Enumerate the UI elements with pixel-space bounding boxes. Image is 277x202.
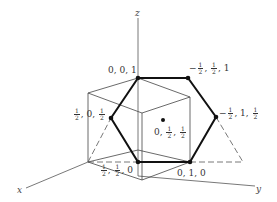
point-half-half-0 [136, 160, 141, 165]
point-half-0-half [109, 116, 114, 121]
label-0-0-1: 0, 0, 1 [108, 66, 137, 75]
point-neg-half-1-half [214, 115, 219, 120]
point-neg-half-half-1 [186, 76, 191, 81]
diagram-canvas [0, 0, 277, 202]
y-axis-label: y [256, 184, 261, 194]
x-axis-label: x [17, 185, 22, 195]
point-0-1-0 [188, 160, 193, 165]
construction-lines [88, 117, 243, 162]
label-0-half-half: 0, 12, 12 [154, 126, 187, 139]
z-axis-label: z [135, 8, 140, 18]
point-0-half-half [161, 118, 165, 122]
label-half-0-half: 12, 0, 12 [73, 108, 106, 121]
x-axis [26, 162, 88, 188]
label-0-1-0: 0, 1, 0 [177, 169, 206, 178]
label-half-half-0: 12, 12, 0 [100, 164, 133, 177]
point-0-0-1 [136, 76, 141, 81]
label-neg-half-half-1: −12, 12, 1 [189, 62, 229, 75]
label-neg-half-1-half: −12, 1, 12 [219, 107, 259, 120]
points [109, 76, 219, 165]
